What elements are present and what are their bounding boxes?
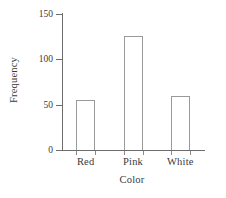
y-tick-mark bbox=[56, 150, 62, 151]
x-axis-title: Color bbox=[62, 174, 202, 185]
y-tick-label: 150 bbox=[20, 9, 53, 19]
bar-red bbox=[76, 100, 95, 150]
y-tick-label: 100 bbox=[20, 54, 53, 64]
bar-chart-figure: Frequency 150100500 RedPinkWhite Color bbox=[0, 0, 226, 198]
plot-area bbox=[62, 14, 204, 150]
y-axis-title: Frequency bbox=[6, 5, 22, 155]
x-axis-line bbox=[62, 150, 205, 151]
y-tick-label: 0 bbox=[20, 145, 53, 155]
y-tick-label: 50 bbox=[20, 100, 53, 110]
bar-white bbox=[171, 96, 190, 150]
x-tick-label-white: White bbox=[150, 155, 210, 169]
bar-pink bbox=[124, 36, 143, 150]
